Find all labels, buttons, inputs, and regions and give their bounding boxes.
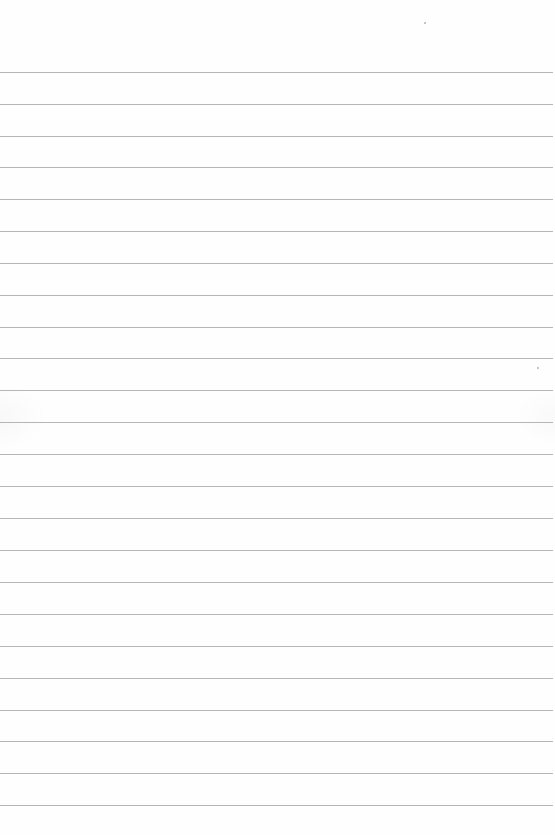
rule-line [0, 199, 553, 200]
rule-line [0, 390, 553, 391]
rule-line [0, 327, 553, 328]
rule-line [0, 773, 553, 774]
rule-line [0, 741, 553, 742]
scan-speck [537, 367, 539, 369]
rule-line [0, 358, 553, 359]
rule-line [0, 422, 553, 423]
rule-line [0, 582, 553, 583]
scan-speck [424, 22, 426, 24]
rule-line [0, 454, 553, 455]
rule-line [0, 136, 553, 137]
rule-line [0, 104, 553, 105]
rule-line [0, 710, 553, 711]
rule-line [0, 678, 553, 679]
ruled-paper-page [0, 0, 555, 835]
rule-line [0, 231, 553, 232]
rule-line [0, 295, 553, 296]
rule-line [0, 72, 553, 73]
rule-line [0, 263, 553, 264]
rule-line [0, 486, 553, 487]
rule-line [0, 614, 553, 615]
rule-line [0, 518, 553, 519]
rule-line [0, 167, 553, 168]
rule-line [0, 805, 553, 806]
rule-line [0, 646, 553, 647]
rule-line [0, 550, 553, 551]
